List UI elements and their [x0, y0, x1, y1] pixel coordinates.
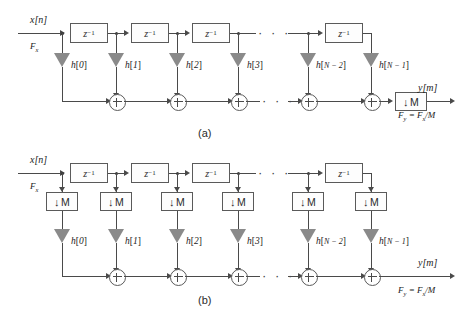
- top-rail-ellipsis-a: · · ·: [258, 25, 291, 40]
- diagram-a-direct-form-decimator: x[n] Fx z−1 z−1 z−1 · · · z−1 h[0] h[1] …: [0, 0, 461, 150]
- coefficient-label-b-2: h[2]: [186, 236, 202, 246]
- gain-triangle-b-0: [54, 229, 70, 243]
- delay-block-b-3: z−1: [192, 163, 230, 183]
- top-rail-ellipsis-b: · · ·: [258, 165, 291, 180]
- delay-arrow-a-4: [318, 30, 323, 36]
- link-a-4pre: [288, 33, 308, 34]
- output-arrow-b: [450, 273, 455, 279]
- adder-b-4: [301, 269, 318, 286]
- gain-out-a-4: [308, 67, 309, 93]
- gain-triangle-a-3: [230, 53, 246, 67]
- coefficient-label-b-1: h[1]: [125, 236, 141, 246]
- link-b-3b: [238, 173, 256, 174]
- gain-out-b-1: [116, 243, 117, 268]
- deci-out-b-3: [238, 211, 239, 229]
- adder-b-1: [109, 269, 126, 286]
- decimator-block-b-5: ↓M: [355, 192, 387, 211]
- output-decimator-block-a: ↓M: [395, 92, 427, 111]
- adder-a-2: [170, 94, 187, 111]
- coefficient-label-b-4: h[N − 2]: [316, 236, 346, 246]
- gain-triangle-a-2: [169, 53, 185, 67]
- input-line-a: [18, 33, 62, 34]
- gain-triangle-a-1: [108, 53, 124, 67]
- accum-rail-b-4: [316, 276, 363, 277]
- output-line-b: [379, 276, 453, 277]
- gain-triangle-b-1: [108, 229, 124, 243]
- input-rate-label-b: Fx: [30, 181, 38, 193]
- caption-b: (b): [198, 294, 211, 306]
- delay-arrow-b-4: [318, 170, 323, 176]
- adder-a-3: [231, 94, 248, 111]
- accum-rail-b-1: [124, 276, 169, 277]
- gain-triangle-b-4: [300, 229, 316, 243]
- gain-out-a-0: [62, 67, 63, 101]
- link-a-3b: [238, 33, 256, 34]
- gain-out-b-2: [177, 243, 178, 268]
- adder-b-2: [170, 269, 187, 286]
- adder-a-1: [109, 94, 126, 111]
- deci-out-b-4: [308, 211, 309, 229]
- delay-block-b-4: z−1: [325, 163, 363, 183]
- tap-drop-a-1: [116, 33, 117, 53]
- accum-rail-b-0: [62, 276, 108, 277]
- delay-arrow-a-3: [185, 30, 190, 36]
- coefficient-label-b-5: h[N − 1]: [379, 236, 409, 246]
- delay-block-a-4: z−1: [325, 23, 363, 43]
- tap-drop-a-2: [177, 33, 178, 53]
- delay-block-b-2: z−1: [131, 163, 169, 183]
- link-a-last: [363, 33, 371, 34]
- decimator-block-b-1: ↓M: [100, 192, 132, 211]
- decimator-block-b-3: ↓M: [222, 192, 254, 211]
- output-rate-label-a: Fy = Fx/M: [398, 110, 435, 122]
- input-line-b: [18, 173, 62, 174]
- coefficient-label-a-0: h[0]: [71, 60, 87, 70]
- gain-out-b-0: [62, 243, 63, 276]
- gain-out-a-2: [177, 67, 178, 93]
- gain-triangle-b-5: [363, 229, 379, 243]
- gain-triangle-b-3: [230, 229, 246, 243]
- coefficient-label-a-4: h[N − 2]: [316, 60, 346, 70]
- caption-a: (a): [198, 127, 211, 139]
- gain-out-a-3: [238, 67, 239, 93]
- gain-triangle-a-4: [300, 53, 316, 67]
- tap-drop-a-3: [238, 33, 239, 53]
- coefficient-label-a-3: h[3]: [247, 60, 263, 70]
- accum-rail-a-0: [62, 101, 108, 102]
- gain-out-a-1: [116, 67, 117, 93]
- gain-out-b-4: [308, 243, 309, 268]
- tap-drop-a-4: [308, 33, 309, 53]
- adder-b-3: [231, 269, 248, 286]
- accum-rail-a-4: [316, 101, 363, 102]
- delay-arrow-b-3: [185, 170, 190, 176]
- coefficient-label-b-3: h[3]: [247, 236, 263, 246]
- delay-block-b-1: z−1: [70, 163, 108, 183]
- gain-triangle-b-2: [169, 229, 185, 243]
- diagram-b-polyphase-decimator: x[n] Fx z−1 z−1 z−1 · · · z−1 ↓M ↓M ↓M ↓…: [0, 150, 461, 310]
- accum-rail-a-3: [246, 101, 260, 102]
- decimator-block-b-4: ↓M: [292, 192, 324, 211]
- coefficient-label-b-0: h[0]: [71, 236, 87, 246]
- deci-out-b-0: [62, 211, 63, 229]
- deci-out-b-2: [177, 211, 178, 229]
- input-rate-label-a: Fx: [30, 41, 38, 53]
- deci-out-b-1: [116, 211, 117, 229]
- gain-out-b-5: [371, 243, 372, 268]
- gain-triangle-a-5: [363, 53, 379, 67]
- gain-out-a-5: [371, 67, 372, 93]
- output-signal-label-b: y[m]: [418, 257, 437, 268]
- link-b-last: [363, 173, 371, 174]
- output-rate-label-b: Fy = Fx/M: [398, 285, 435, 297]
- accum-arrow-a-5: [388, 98, 393, 104]
- output-signal-label-a: y[m]: [418, 82, 437, 93]
- adder-b-5: [364, 269, 381, 286]
- coefficient-label-a-1: h[1]: [125, 60, 141, 70]
- output-arrow-a: [450, 98, 455, 104]
- delay-block-a-3: z−1: [192, 23, 230, 43]
- gain-triangle-a-0: [54, 53, 70, 67]
- delay-arrow-a-2: [124, 30, 129, 36]
- accum-rail-a-1: [124, 101, 169, 102]
- delay-arrow-b-2: [124, 170, 129, 176]
- delay-block-a-1: z−1: [70, 23, 108, 43]
- coefficient-label-a-2: h[2]: [186, 60, 202, 70]
- accum-rail-a-2: [185, 101, 230, 102]
